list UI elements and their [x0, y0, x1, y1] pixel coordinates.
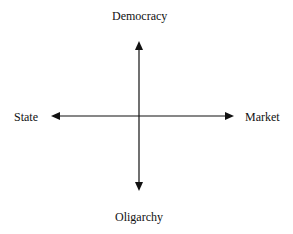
label-state: State [14, 110, 38, 124]
horizontal-axis-arrow [51, 112, 234, 120]
arrowhead-down-icon [135, 182, 143, 191]
label-democracy: Democracy [112, 9, 167, 23]
label-oligarchy: Oligarchy [115, 210, 163, 224]
label-market: Market [245, 110, 280, 124]
arrowhead-right-icon [225, 112, 234, 120]
arrowhead-up-icon [135, 41, 143, 50]
arrowhead-left-icon [51, 112, 60, 120]
